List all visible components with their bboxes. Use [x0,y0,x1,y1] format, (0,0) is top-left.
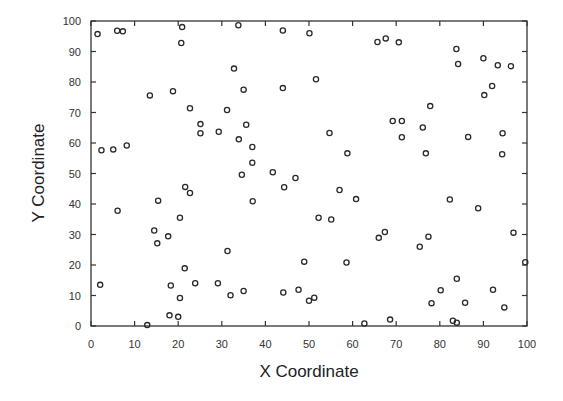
data-point-circle-icon [168,283,173,288]
y-tick-label: 20 [69,259,81,271]
data-point-circle-icon [382,229,387,234]
data-point-circle-icon [239,172,244,177]
x-tick-label: 50 [303,338,315,350]
x-tick-label: 80 [434,338,446,350]
y-tick-label: 60 [69,137,81,149]
data-point-circle-icon [500,131,505,136]
data-point-circle-icon [420,125,425,130]
data-point-circle-icon [250,144,255,149]
data-point-circle-icon [215,281,220,286]
data-point-circle-icon [428,103,433,108]
data-point-circle-icon [170,89,175,94]
data-point-circle-icon [280,86,285,91]
data-point-circle-icon [417,244,422,249]
data-point-circle-icon [241,288,246,293]
data-point-circle-icon [502,305,507,310]
data-point-circle-icon [280,28,285,33]
data-point-circle-icon [182,266,187,271]
data-point-circle-icon [111,147,116,152]
data-point-circle-icon [124,143,129,148]
y-tick-label: 30 [69,229,81,241]
data-point-circle-icon [454,276,459,281]
data-point-circle-icon [426,234,431,239]
x-tick-label: 70 [390,338,402,350]
data-point-circle-icon [147,93,152,98]
data-point-circle-icon [353,197,358,202]
data-point-circle-icon [224,107,229,112]
x-tick-label: 10 [128,338,140,350]
data-point-circle-icon [375,39,380,44]
data-point-circle-icon [390,118,395,123]
data-point-circle-icon [250,199,255,204]
data-point-circle-icon [429,301,434,306]
data-point-circle-icon [307,31,312,36]
data-point-circle-icon [490,83,495,88]
y-tick-label: 90 [69,46,81,58]
data-point-circle-icon [99,148,104,153]
data-point-circle-icon [115,208,120,213]
data-point-circle-icon [241,87,246,92]
data-point-circle-icon [225,248,230,253]
data-point-circle-icon [482,93,487,98]
data-point-circle-icon [511,230,516,235]
y-tick-label: 0 [75,320,81,332]
data-point-circle-icon [187,106,192,111]
y-tick-label: 40 [69,198,81,210]
data-point-circle-icon [447,197,452,202]
y-axis-title: Y Coordinate [29,124,48,223]
data-point-circle-icon [399,135,404,140]
data-point-circle-icon [383,36,388,41]
data-point-circle-icon [345,151,350,156]
data-point-circle-icon [187,190,192,195]
data-point-circle-icon [327,130,332,135]
data-point-circle-icon [236,137,241,142]
data-point-circle-icon [316,215,321,220]
data-point-circle-icon [302,259,307,264]
plot-area [91,21,527,326]
data-point-circle-icon [115,28,120,33]
y-tick-label: 10 [69,290,81,302]
data-point-circle-icon [177,215,182,220]
data-point-circle-icon [481,56,486,61]
data-point-circle-icon [180,25,185,30]
scatter-chart: 0102030405060708090100 01020304050607080… [0,0,563,401]
data-point-circle-icon [313,77,318,82]
x-tick-label: 0 [88,338,94,350]
x-tick-label: 60 [346,338,358,350]
x-axis-title: X Coordinate [259,362,358,381]
data-point-circle-icon [306,298,311,303]
data-point-circle-icon [438,288,443,293]
y-tick-label: 70 [69,107,81,119]
data-point-circle-icon [476,206,481,211]
data-point-circle-icon [198,121,203,126]
data-point-circle-icon [120,29,125,34]
data-point-circle-icon [216,129,221,134]
data-point-circle-icon [312,295,317,300]
data-point-circle-icon [281,290,286,295]
data-point-circle-icon [193,281,198,286]
data-point-circle-icon [244,122,249,127]
data-point-circle-icon [387,317,392,322]
x-tick-label: 100 [518,338,536,350]
data-point-circle-icon [337,187,342,192]
data-point-circle-icon [231,66,236,71]
data-point-circle-icon [250,160,255,165]
y-tick-label: 80 [69,76,81,88]
data-point-circle-icon [236,23,241,28]
data-point-circle-icon [462,300,467,305]
plot-frame [91,21,527,326]
x-tick-label: 90 [477,338,489,350]
x-tick-label: 30 [216,338,228,350]
data-point-circle-icon [456,61,461,66]
data-point-circle-icon [179,40,184,45]
data-point-circle-icon [176,314,181,319]
data-point-circle-icon [396,40,401,45]
data-point-circle-icon [152,228,157,233]
x-tick-label: 40 [259,338,271,350]
data-point-circle-icon [177,295,182,300]
data-point-circle-icon [466,134,471,139]
data-point-circle-icon [145,322,150,327]
data-point-circle-icon [293,175,298,180]
data-point-circle-icon [500,152,505,157]
data-point-circle-icon [490,287,495,292]
